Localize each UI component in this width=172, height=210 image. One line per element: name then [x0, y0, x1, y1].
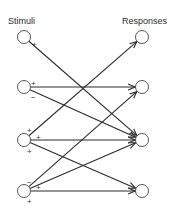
- sign-s4-r4: +: [27, 197, 32, 206]
- signs-group: ++−+++−++: [27, 40, 41, 206]
- stimulus-response-diagram: Stimuli Responses ++−+++−++: [0, 0, 172, 210]
- stimulus-node-s1: [18, 31, 31, 44]
- stimuli-header: Stimuli: [8, 16, 35, 26]
- stimulus-node-s4: [18, 185, 31, 198]
- response-node-r4: [136, 185, 149, 198]
- response-node-r3: [136, 134, 149, 147]
- sign-s3-r3: +: [36, 133, 41, 142]
- sign-s2-r3: −: [31, 93, 36, 102]
- sign-s3-r1: +: [27, 126, 32, 135]
- connection-s4-r2: [29, 92, 137, 187]
- responses-header: Responses: [122, 16, 168, 26]
- stimulus-node-s3: [18, 134, 31, 147]
- response-node-r1: [136, 31, 149, 44]
- sign-s3-r4: +: [27, 147, 32, 156]
- connection-s2-r3: [30, 90, 136, 137]
- sign-s1-r3: +: [32, 40, 37, 49]
- sign-s4-r3: +: [36, 183, 41, 192]
- stimulus-node-s2: [18, 81, 31, 94]
- connections-group: [29, 41, 137, 191]
- response-node-r2: [136, 81, 149, 94]
- sign-s2-r2: +: [31, 79, 36, 88]
